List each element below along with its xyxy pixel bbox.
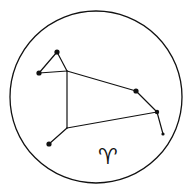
star-H bbox=[46, 141, 51, 146]
star-D bbox=[133, 88, 138, 93]
border-circle bbox=[10, 11, 182, 183]
star-E bbox=[155, 110, 159, 114]
constellation-line bbox=[136, 91, 157, 112]
constellation-line bbox=[39, 52, 57, 73]
constellation-line bbox=[49, 128, 67, 144]
constellation-line bbox=[157, 112, 163, 134]
constellation-diagram bbox=[0, 0, 190, 192]
constellation-line bbox=[39, 71, 67, 73]
star-F bbox=[161, 132, 164, 135]
star-A bbox=[54, 49, 59, 54]
constellation-line bbox=[67, 71, 136, 91]
star-B bbox=[36, 70, 41, 75]
constellation-line bbox=[57, 52, 67, 71]
aries-symbol-icon: ♈ bbox=[98, 146, 118, 168]
constellation-stars bbox=[36, 49, 164, 146]
constellation-line bbox=[67, 112, 157, 128]
constellation-lines bbox=[39, 52, 163, 144]
